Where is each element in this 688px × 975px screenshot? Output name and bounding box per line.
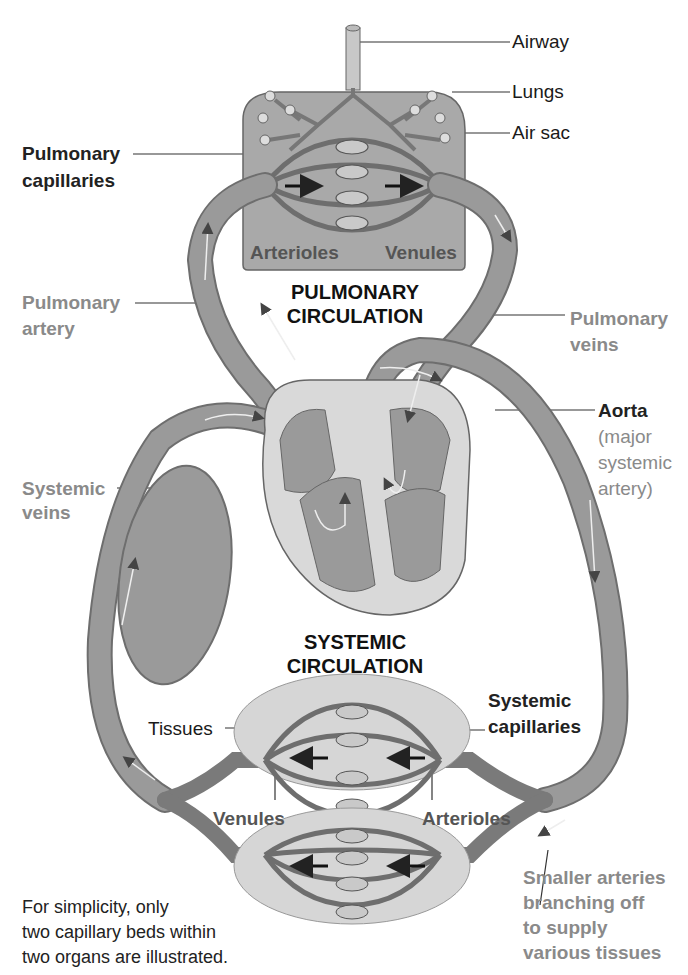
label-tissues: Tissues bbox=[148, 718, 213, 740]
section-title-systemic-2: CIRCULATION bbox=[245, 654, 465, 678]
footnote-line-3: two organs are illustrated. bbox=[22, 945, 228, 970]
heart bbox=[263, 380, 470, 615]
label-airway: Airway bbox=[512, 31, 569, 53]
label-systemic-capillaries-2: capillaries bbox=[488, 716, 581, 738]
label-systemic-veins-1: Systemic bbox=[22, 478, 105, 500]
footnote-line-2: two capillary beds within bbox=[22, 920, 216, 945]
label-smaller-arteries-4: various tissues bbox=[523, 942, 661, 964]
label-pulmonary-capillaries-1: Pulmonary bbox=[22, 143, 120, 165]
footnote-line-1: For simplicity, only bbox=[22, 895, 169, 920]
label-lung-arterioles: Arterioles bbox=[250, 242, 339, 264]
label-systemic-veins-2: veins bbox=[22, 502, 71, 524]
label-pulmonary-veins-1: Pulmonary bbox=[570, 308, 668, 330]
label-smaller-arteries-3: to supply bbox=[523, 917, 607, 939]
label-lung-venules: Venules bbox=[385, 242, 457, 264]
label-aorta-note-2: systemic bbox=[598, 452, 672, 474]
label-pulmonary-capillaries-2: capillaries bbox=[22, 170, 115, 192]
label-air-sac: Air sac bbox=[512, 122, 570, 144]
section-title-pulmonary-1: PULMONARY bbox=[245, 280, 465, 304]
label-tissue-venules: Venules bbox=[213, 808, 285, 830]
tissue-bed-upper bbox=[234, 674, 470, 815]
label-tissue-arterioles: Arterioles bbox=[422, 808, 511, 830]
label-aorta: Aorta bbox=[598, 400, 648, 422]
label-smaller-arteries-1: Smaller arteries bbox=[523, 867, 666, 889]
label-lungs: Lungs bbox=[512, 81, 564, 103]
label-smaller-arteries-2: branching off bbox=[523, 892, 644, 914]
label-aorta-note-1: (major bbox=[598, 426, 652, 448]
section-title-pulmonary-2: CIRCULATION bbox=[245, 304, 465, 328]
label-pulmonary-veins-2: veins bbox=[570, 334, 619, 356]
label-pulmonary-artery-1: Pulmonary bbox=[22, 292, 120, 314]
label-aorta-note-3: artery) bbox=[598, 478, 653, 500]
label-pulmonary-artery-2: artery bbox=[22, 318, 75, 340]
section-title-systemic-1: SYSTEMIC bbox=[245, 630, 465, 654]
label-systemic-capillaries-1: Systemic bbox=[488, 690, 571, 712]
